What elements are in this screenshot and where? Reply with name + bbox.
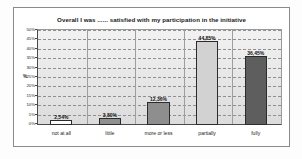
y-axis-tick-label: 15% xyxy=(26,92,35,97)
y-axis-tick-label: 45% xyxy=(26,36,35,41)
y-axis-tick-label: 40% xyxy=(26,45,35,50)
plot-wrap: 0%5%10%15%20%25%30%35%40%45%50% 2,54%not… xyxy=(37,29,282,125)
bar-more-or-less[interactable]: 12,36% xyxy=(147,102,169,125)
y-axis-tick-mark xyxy=(35,38,37,39)
x-axis-tick-label: partially xyxy=(198,130,216,136)
bar-not-at-all[interactable]: 2,54% xyxy=(50,120,72,125)
bar-value-label: 2,54% xyxy=(54,114,68,120)
y-axis-tick-mark xyxy=(35,57,37,58)
y-axis-tick-mark xyxy=(35,104,37,105)
category-separator xyxy=(135,30,136,124)
chart-frame: Overall I was ...... satisfied with my p… xyxy=(13,7,290,147)
x-axis-tick-label: more or less xyxy=(144,130,172,136)
y-axis-tick-label: 35% xyxy=(26,55,35,60)
x-axis-tick-label: little xyxy=(105,130,114,136)
y-axis-tick-label: 10% xyxy=(26,102,35,107)
bar-value-label: 36,45% xyxy=(247,50,264,56)
gridline xyxy=(38,39,281,40)
category-separator xyxy=(232,30,233,124)
category-separator xyxy=(87,30,88,124)
y-axis-tick-label: 30% xyxy=(26,64,35,69)
category-separator xyxy=(184,30,185,124)
y-axis-tick-mark xyxy=(35,67,37,68)
y-axis-tick-label: 25% xyxy=(26,74,35,79)
bar-partially[interactable]: 44,85% xyxy=(196,41,218,125)
gridline xyxy=(38,49,281,50)
y-axis-tick-mark xyxy=(35,123,37,124)
y-axis-tick-mark xyxy=(35,85,37,86)
bar-value-label: 44,85% xyxy=(199,35,216,41)
x-axis-tick-label: not at all xyxy=(52,130,71,136)
bar-value-label: 3,80% xyxy=(103,112,117,118)
chart-screenshot: Overall I was ...... satisfied with my p… xyxy=(0,0,302,159)
y-axis-tick-mark xyxy=(35,95,37,96)
bar-fully[interactable]: 36,45% xyxy=(245,56,267,125)
y-axis-tick-mark xyxy=(35,114,37,115)
y-axis-tick-label: 20% xyxy=(26,83,35,88)
y-axis-tick-mark xyxy=(35,48,37,49)
bar-value-label: 12,36% xyxy=(150,96,167,102)
x-axis-tick-label: fully xyxy=(251,130,260,136)
y-axis-tick-mark xyxy=(35,76,37,77)
y-axis-tick-label: 50% xyxy=(26,27,35,32)
bar-little[interactable]: 3,80% xyxy=(99,118,121,125)
chart-title: Overall I was ...... satisfied with my p… xyxy=(14,16,289,23)
y-axis-tick-mark xyxy=(35,29,37,30)
gridline xyxy=(38,30,281,31)
